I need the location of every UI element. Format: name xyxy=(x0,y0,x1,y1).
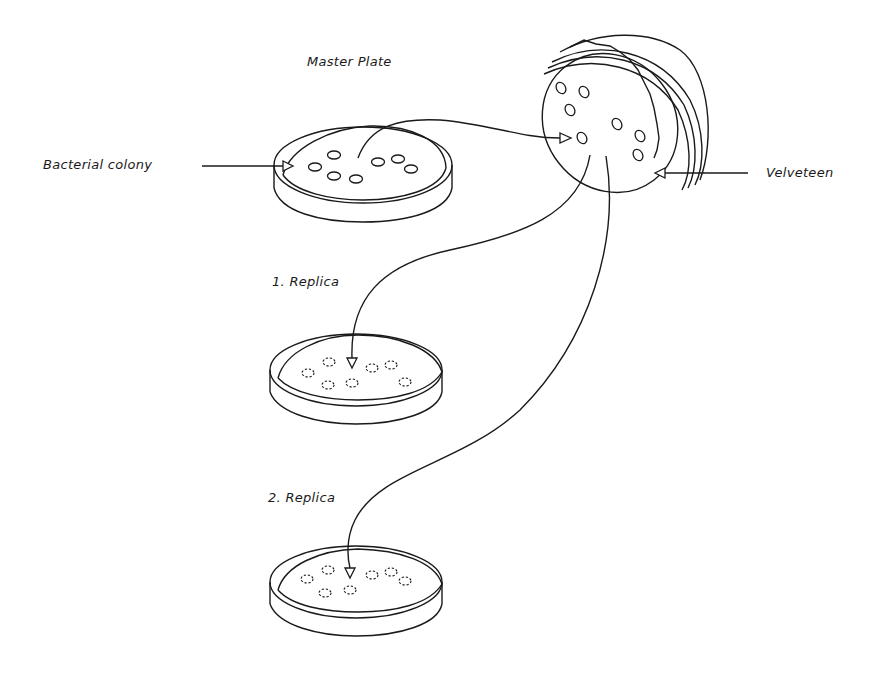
bacterial-colony-label: Bacterial colony xyxy=(43,157,152,172)
transfer-arrow-master-to-velveteen xyxy=(358,120,571,158)
replica-plating-diagram: Master Plate Bacterial colony Velveteen … xyxy=(0,0,882,679)
master-plate xyxy=(274,126,452,222)
replica-2-plate xyxy=(270,546,442,636)
transfer-arrow-velveteen-to-replica-2 xyxy=(345,156,609,578)
replica-2-colonies xyxy=(301,566,411,597)
velveteen-stamp xyxy=(514,26,708,220)
master-colonies xyxy=(309,151,418,183)
replica-1-plate xyxy=(270,334,442,424)
master-plate-label: Master Plate xyxy=(307,54,392,69)
replica-2-label: 2. Replica xyxy=(268,490,335,505)
velveteen-colonies xyxy=(554,81,647,163)
velveteen-label: Velveteen xyxy=(766,165,833,180)
bacterial-colony-pointer xyxy=(202,161,293,171)
replica-1-label: 1. Replica xyxy=(272,274,339,289)
replica-1-colonies xyxy=(302,358,411,389)
